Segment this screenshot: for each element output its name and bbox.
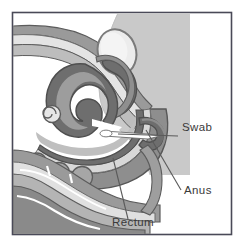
label-swab: Swab [182, 121, 212, 133]
anatomy-diagram: Swab Anus Rectum [0, 0, 243, 250]
label-rectum: Rectum [112, 216, 154, 228]
small-bowel-coil [43, 106, 61, 123]
illustration-canvas: Swab Anus Rectum [0, 0, 243, 250]
label-anus: Anus [184, 184, 212, 196]
